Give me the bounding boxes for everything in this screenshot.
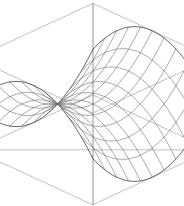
wireframe-surface-figure <box>0 0 184 206</box>
plot-canvas <box>0 0 184 206</box>
